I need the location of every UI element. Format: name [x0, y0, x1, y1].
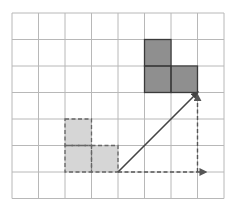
grid-diagram	[0, 0, 232, 206]
original-l-shape-cell	[92, 146, 119, 173]
translated-l-shape-cell	[145, 66, 172, 93]
translated-l-shape-cell	[171, 66, 198, 93]
grid-lines	[12, 13, 224, 199]
translation-vector-arrow	[118, 93, 198, 173]
vectors-layer	[118, 93, 205, 173]
original-l-shape-cell	[65, 119, 92, 146]
translated-l-shape-cell	[145, 40, 172, 67]
original-l-shape-cell	[65, 146, 92, 173]
translation-diagram	[0, 0, 232, 206]
shapes-layer	[65, 40, 198, 173]
